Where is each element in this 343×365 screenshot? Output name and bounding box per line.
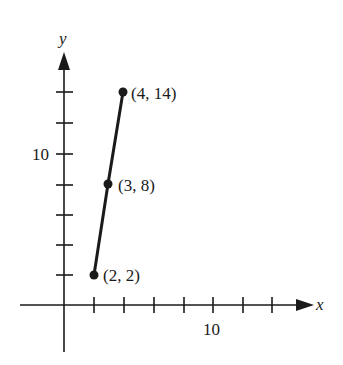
point-label-4-14: (4, 14) bbox=[131, 84, 176, 103]
point-label-3-8: (3, 8) bbox=[118, 176, 155, 195]
point-label-2-2: (2, 2) bbox=[103, 266, 140, 285]
y-tick-label-10: 10 bbox=[32, 145, 49, 164]
y-axis-label: y bbox=[57, 29, 67, 48]
x-axis-arrow-icon bbox=[296, 299, 314, 311]
chart: (2, 2) (3, 8) (4, 14) 10 10 x y bbox=[0, 0, 343, 365]
x-tick-label-10: 10 bbox=[203, 320, 220, 339]
x-axis-label: x bbox=[315, 295, 324, 314]
data-point-4-14 bbox=[119, 88, 128, 97]
y-axis-arrow-icon bbox=[58, 52, 70, 70]
data-point-2-2 bbox=[90, 271, 99, 280]
data-point-3-8 bbox=[104, 180, 113, 189]
